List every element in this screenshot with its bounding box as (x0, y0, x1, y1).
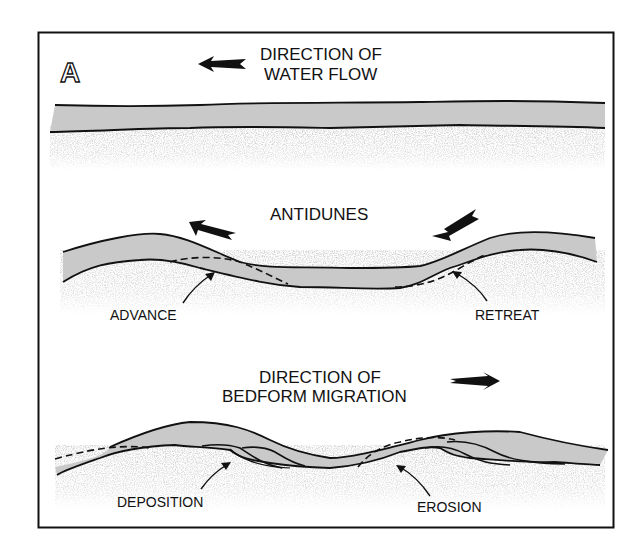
migration-title-line1: DIRECTION OF (259, 368, 381, 387)
retreat-label: RETREAT (475, 307, 540, 323)
antidune-left-arrow-icon (189, 220, 236, 240)
water-flow-title-line2: WATER FLOW (264, 65, 377, 84)
antidune-right-arrow-icon (432, 209, 479, 241)
migration-title-line2: BEDFORM MIGRATION (222, 387, 407, 406)
antidunes-section: ANTIDUNES ADVANCE RETREAT (60, 205, 605, 323)
advance-label: ADVANCE (110, 307, 177, 323)
antidunes-title: ANTIDUNES (270, 205, 368, 224)
bedform-diagram: A DIRECTION OF WATER FLOW ANTIDUNES (0, 0, 642, 554)
migration-arrow-icon (450, 372, 500, 390)
erosion-label: EROSION (417, 499, 482, 515)
panel-letter: A (60, 57, 80, 88)
water-flow-title-line1: DIRECTION OF (260, 45, 382, 64)
water-flow-arrow-icon (198, 56, 246, 72)
sediment-layer (50, 126, 605, 170)
migration-section: DIRECTION OF BEDFORM MIGRATION DEPOSITIO… (55, 368, 608, 515)
flat-bed-section: DIRECTION OF WATER FLOW (50, 45, 605, 170)
deposition-label: DEPOSITION (117, 494, 203, 510)
